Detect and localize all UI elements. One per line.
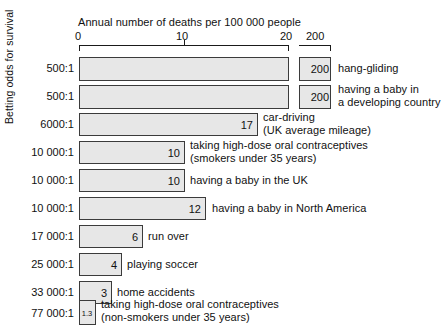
odds-label: 77 000:1	[0, 307, 74, 319]
x-axis-broken-rule	[299, 45, 331, 46]
bar-value-label: 10	[155, 175, 180, 187]
x-tick-label-200: 200	[306, 30, 324, 43]
bar-description: having a baby in the UK	[190, 174, 308, 187]
bar-value-label: 6	[114, 231, 138, 243]
bar-value-label: 200	[301, 91, 329, 103]
bar-description: having a baby in North America	[212, 202, 366, 215]
bar-value-label: 17	[228, 119, 253, 131]
odds-label: 25 000:1	[0, 258, 74, 270]
x-tick-label-0: 0	[75, 30, 81, 43]
odds-label: 10 000:1	[0, 146, 74, 158]
x-tick-label-20: 20	[280, 30, 292, 43]
odds-label: 17 000:1	[0, 230, 74, 242]
bar-description: car-driving (UK average mileage)	[263, 111, 371, 137]
bar-main	[79, 85, 289, 109]
bar-description: playing soccer	[127, 258, 198, 271]
bar-value-label: 200	[301, 63, 329, 75]
risk-comparison-chart: Betting odds for survival Annual number …	[0, 0, 444, 327]
odds-label: 10 000:1	[0, 174, 74, 186]
bar-value-label: 12	[176, 203, 201, 215]
x-axis-title: Annual number of deaths per 100 000 peop…	[78, 16, 301, 29]
bar-description: taking high-dose oral contraceptives (sm…	[190, 139, 368, 165]
x-axis-tick-20	[288, 45, 289, 51]
bar-description: taking high-dose oral contraceptives (no…	[101, 298, 279, 324]
bar-main	[79, 57, 289, 81]
x-axis-tick-10	[184, 40, 185, 46]
bar-description: having a baby in a developing country	[338, 83, 441, 109]
x-tick-label-10: 10	[176, 30, 188, 43]
bar-description: hang-gliding	[338, 62, 399, 75]
odds-label: 500:1	[0, 62, 74, 74]
bar-value-label: 4	[93, 259, 117, 271]
odds-label: 500:1	[0, 90, 74, 102]
x-axis-tick-0	[79, 45, 80, 51]
odds-label: 6000:1	[0, 118, 74, 130]
odds-label: 10 000:1	[0, 202, 74, 214]
bar-value-label: 10	[155, 147, 180, 159]
odds-label: 33 000:1	[0, 286, 74, 298]
bar-value-label: 1.3	[80, 309, 94, 318]
bar-description: run over	[148, 230, 189, 243]
x-axis-tick-200	[330, 45, 331, 51]
